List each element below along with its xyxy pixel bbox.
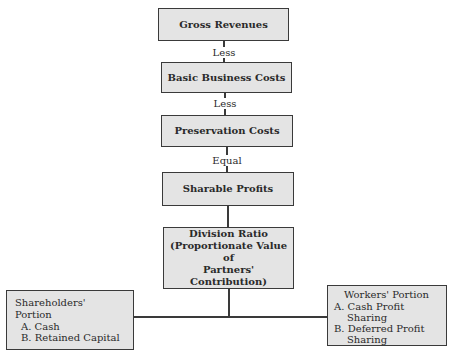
node-division-ratio: Division Ratio (Proportionate Value of P… — [163, 227, 294, 289]
node-label-line-1: Division Ratio — [189, 228, 268, 240]
node-label-line-3: Partners' Contribution) — [164, 264, 293, 288]
connector-label-less-2: Less — [213, 98, 238, 109]
connector-horizontal-split — [133, 316, 328, 318]
node-label: Gross Revenues — [179, 19, 268, 31]
node-label: Basic Business Costs — [168, 72, 286, 84]
node-workers-portion: Workers' Portion A. Cash Profit Sharing … — [327, 285, 447, 346]
node-label: Sharable Profits — [183, 183, 273, 195]
node-basic-business-costs: Basic Business Costs — [161, 62, 292, 93]
connector-label-less-1: Less — [212, 47, 237, 58]
node-item: A. Cash — [15, 321, 60, 332]
node-shareholders-portion: Shareholders' Portion A. Cash B. Retaine… — [6, 290, 134, 350]
node-item: Sharing — [334, 312, 387, 323]
node-item: A. Cash Profit — [334, 301, 404, 312]
connector-division-split — [228, 288, 230, 316]
node-label: Preservation Costs — [174, 125, 279, 137]
node-sharable-profits: Sharable Profits — [162, 172, 294, 206]
node-item: Sharing — [334, 334, 387, 345]
node-item: B. Deferred Profit — [334, 323, 425, 334]
node-item: B. Retained Capital — [15, 332, 120, 343]
node-title: Shareholders' Portion — [15, 297, 125, 321]
node-title: Workers' Portion — [334, 289, 429, 301]
node-preservation-costs: Preservation Costs — [161, 115, 293, 147]
node-gross-revenues: Gross Revenues — [158, 8, 289, 41]
node-label-line-2: (Proportionate Value of — [164, 240, 293, 264]
connector-sharable-division — [227, 205, 229, 229]
connector-label-equal: Equal — [211, 155, 242, 166]
